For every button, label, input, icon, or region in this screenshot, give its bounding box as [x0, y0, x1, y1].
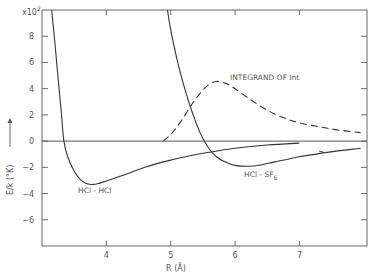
arrow-up-icon [8, 118, 13, 147]
x-tick-label: 6 [233, 251, 238, 260]
y-tick-label: −4 [22, 190, 34, 199]
stray-mark [319, 151, 323, 152]
y-tick-label: 4 [29, 85, 34, 94]
curves [52, 10, 361, 184]
curve-integrand-of-int [163, 81, 361, 141]
x-axis-ticks: 4567 [104, 10, 302, 260]
y-tick-label: −6 [22, 216, 34, 225]
y-tick-label: 2 [29, 111, 34, 120]
y-axis-label: E/k (°K) [6, 118, 15, 195]
label-integrand: INTEGRAND OF Int [230, 73, 299, 82]
y-tick-label: 6 [29, 58, 34, 67]
y-tick-label: 0 [29, 137, 34, 146]
x-tick-label: 4 [104, 251, 109, 260]
plot-frame [42, 10, 367, 246]
y-multiplier: x102 [22, 5, 41, 17]
y-tick-label: 8 [29, 32, 34, 41]
x-tick-label: 7 [297, 251, 302, 260]
x-tick-label: 5 [168, 251, 173, 260]
label-hcl-hcl: HCl - HCl [78, 186, 111, 195]
curve-hcl-sf6 [168, 10, 361, 166]
y-axis-ticks: 86420−2−4−6 [22, 32, 367, 225]
potential-energy-chart: 4567 86420−2−4−6 x102 E/k (°K) R (Å) INT… [0, 0, 373, 279]
y-tick-label: −2 [22, 163, 34, 172]
svg-text:E/k (°K): E/k (°K) [6, 165, 15, 195]
x-axis-label: R (Å) [166, 262, 186, 273]
curve-hcl-hcl [52, 10, 300, 184]
label-hcl-sf6: HCl - SF6 [244, 170, 278, 181]
